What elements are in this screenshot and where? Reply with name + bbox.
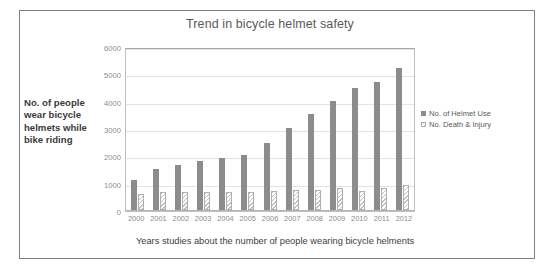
bar-group	[392, 49, 414, 210]
bar-group	[325, 49, 347, 210]
bar-no-of-helmet-use-2011	[374, 82, 380, 210]
bar-no-of-helmet-use-2006	[264, 143, 270, 210]
bar-group	[148, 49, 170, 210]
bar-no-death-injury-2004	[226, 192, 232, 210]
bar-no-death-injury-2008	[315, 190, 321, 211]
y-tick-label: 4000	[91, 98, 121, 107]
bar-no-of-helmet-use-2000	[131, 180, 137, 210]
bar-no-death-injury-2010	[359, 191, 365, 210]
x-tick-label: 2006	[259, 214, 281, 223]
bar-no-of-helmet-use-2005	[241, 155, 247, 210]
bar-no-death-injury-2001	[160, 192, 166, 210]
bar-no-of-helmet-use-2001	[153, 169, 159, 210]
bar-no-death-injury-2005	[248, 192, 254, 210]
y-tick-label: 2000	[91, 153, 121, 162]
x-tick-label: 2005	[237, 214, 259, 223]
x-tick-label: 2000	[125, 214, 147, 223]
x-tick-label: 2004	[214, 214, 236, 223]
bar-group	[259, 49, 281, 210]
bar-no-death-injury-2002	[182, 192, 188, 210]
chart-page: Trend in bicycle helmet safety No. of pe…	[0, 0, 554, 270]
chart-title: Trend in bicycle helmet safety	[120, 17, 420, 31]
legend-item[interactable]: No. of Helmet Use	[421, 108, 533, 119]
bar-no-death-injury-2006	[271, 191, 277, 210]
x-tick-label: 2002	[170, 214, 192, 223]
x-tick-label: 2008	[304, 214, 326, 223]
y-axis-tick-labels: 0100020003000400050006000	[88, 48, 121, 212]
bar-groups	[126, 49, 414, 210]
bar-group	[281, 49, 303, 210]
y-tick-label: 0	[91, 208, 121, 217]
bar-no-death-injury-2011	[381, 188, 387, 210]
bar-group	[370, 49, 392, 210]
x-tick-label: 2003	[192, 214, 214, 223]
legend-label: No. Death & Injury	[429, 120, 491, 129]
bar-no-death-injury-2000	[138, 194, 144, 210]
bar-no-death-injury-2003	[204, 192, 210, 210]
x-axis-title: Years studies about the number of people…	[60, 236, 490, 246]
bar-no-of-helmet-use-2004	[219, 158, 225, 210]
x-tick-label: 2012	[393, 214, 415, 223]
bar-no-of-helmet-use-2009	[330, 101, 336, 210]
bar-no-death-injury-2007	[293, 190, 299, 211]
bar-group	[303, 49, 325, 210]
x-tick-label: 2001	[147, 214, 169, 223]
y-tick-label: 1000	[91, 180, 121, 189]
legend-swatch-icon	[421, 111, 426, 116]
bar-no-of-helmet-use-2002	[175, 165, 181, 210]
bar-no-of-helmet-use-2008	[308, 114, 314, 210]
bar-no-death-injury-2012	[403, 185, 409, 210]
bar-no-of-helmet-use-2010	[352, 88, 358, 210]
y-tick-label: 5000	[91, 71, 121, 80]
legend-label: No. of Helmet Use	[429, 109, 491, 118]
bar-group	[348, 49, 370, 210]
bar-no-of-helmet-use-2012	[396, 68, 402, 210]
y-tick-label: 3000	[91, 126, 121, 135]
bar-no-of-helmet-use-2003	[197, 161, 203, 210]
y-tick-label: 6000	[91, 44, 121, 53]
bar-group	[237, 49, 259, 210]
plot-area	[125, 48, 415, 212]
x-tick-label: 2010	[348, 214, 370, 223]
bar-no-death-injury-2009	[337, 188, 343, 210]
x-tick-label: 2011	[370, 214, 392, 223]
legend-item[interactable]: No. Death & Injury	[421, 119, 533, 130]
bar-group	[215, 49, 237, 210]
x-tick-label: 2009	[326, 214, 348, 223]
bar-group	[192, 49, 214, 210]
bar-no-of-helmet-use-2007	[286, 128, 292, 210]
bar-group	[170, 49, 192, 210]
x-axis-line	[126, 210, 414, 211]
bar-group	[126, 49, 148, 210]
x-axis-tick-labels: 2000200120022003200420052006200720082009…	[125, 214, 415, 223]
legend-swatch-icon	[421, 122, 426, 127]
chart-legend: No. of Helmet UseNo. Death & Injury	[421, 108, 533, 130]
x-tick-label: 2007	[281, 214, 303, 223]
